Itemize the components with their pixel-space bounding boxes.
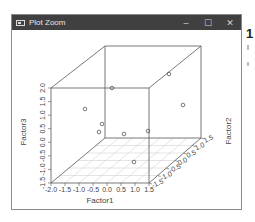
data-point (100, 122, 104, 126)
svg-text:-1.5: -1.5 (39, 177, 46, 189)
svg-text:0.0: 0.0 (102, 186, 112, 193)
data-point (181, 103, 185, 107)
data-point (97, 130, 101, 134)
x-axis-tick-labels: -2.0-1.5-1.0-0.50.00.51.01.5 (45, 186, 154, 193)
svg-text:-0.5: -0.5 (87, 186, 99, 193)
svg-text:1.5: 1.5 (39, 97, 46, 107)
data-point (83, 107, 87, 111)
svg-text:-2.0: -2.0 (45, 186, 57, 193)
plot-zoom-window: Plot Zoom – ☐ ✕ -2.0-1.5- (11, 14, 242, 210)
svg-text:-1.0: -1.0 (39, 163, 46, 175)
svg-text:1.0: 1.0 (130, 186, 140, 193)
svg-text:0.5: 0.5 (39, 124, 46, 134)
svg-text:-0.5: -0.5 (39, 150, 46, 162)
svg-text:0.5: 0.5 (116, 186, 126, 193)
scatter3d-plot: -2.0-1.5-1.0-0.50.00.51.01.5 -1.5-1.0-0.… (1, 1, 255, 222)
data-points (83, 72, 185, 164)
svg-text:0.0: 0.0 (39, 137, 46, 147)
svg-text:1.5: 1.5 (202, 133, 214, 144)
svg-text:1.0: 1.0 (39, 110, 46, 120)
z-axis-tick-labels: -1.5-1.0-0.50.00.51.01.52.0 (39, 83, 46, 189)
svg-text:-1.0: -1.0 (73, 186, 85, 193)
y-axis-label: Factor2 (224, 117, 233, 145)
z-axis-label: Factor3 (19, 118, 28, 146)
data-point (122, 132, 126, 136)
svg-text:-1.5: -1.5 (59, 186, 71, 193)
svg-text:2.0: 2.0 (39, 83, 46, 93)
x-axis-label: Factor1 (86, 196, 114, 205)
axis-ticks (48, 88, 204, 186)
data-point (167, 72, 171, 76)
